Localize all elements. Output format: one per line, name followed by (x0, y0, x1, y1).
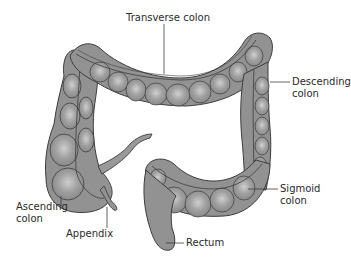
label-descending-colon: Descending colon (292, 76, 351, 100)
label-transverse-colon: Transverse colon (126, 12, 210, 24)
label-sigmoid-colon: Sigmoid colon (280, 183, 320, 207)
label-rectum: Rectum (186, 237, 224, 249)
label-ascending-colon: Ascending colon (16, 201, 68, 225)
label-appendix: Appendix (66, 228, 113, 240)
